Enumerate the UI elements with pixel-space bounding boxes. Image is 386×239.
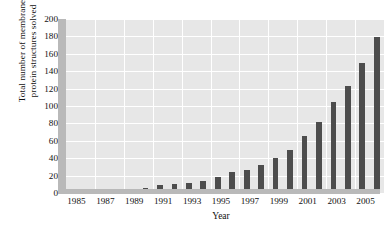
- gridline-vertical: [326, 19, 327, 193]
- y-axis-tick-label: 40: [49, 153, 58, 163]
- gridline-horizontal: [66, 54, 384, 55]
- gridline-vertical: [153, 19, 154, 193]
- gridline-vertical: [124, 19, 125, 193]
- y-axis-tick-label: 160: [44, 49, 58, 59]
- x-axis-tick-label: 1995: [212, 196, 230, 206]
- bar: [331, 102, 337, 193]
- x-axis-tick-label: 1993: [183, 196, 201, 206]
- gridline-horizontal: [66, 123, 384, 124]
- plot-inner: [66, 19, 384, 193]
- gridline-vertical: [211, 19, 212, 193]
- x-axis-tick-label: 1999: [270, 196, 288, 206]
- bar: [345, 86, 351, 193]
- gridline-horizontal: [66, 141, 384, 142]
- x-axis-tick-label: 2005: [356, 196, 374, 206]
- y-axis-tick-label: 120: [44, 84, 58, 94]
- y-axis-tick-labels: 020406080100120140160180200: [30, 14, 60, 194]
- gridline-horizontal: [66, 36, 384, 37]
- bar: [374, 37, 380, 193]
- gridline-horizontal: [66, 106, 384, 107]
- gridline-horizontal: [66, 158, 384, 159]
- gridline-vertical: [297, 19, 298, 193]
- gridline-horizontal: [66, 176, 384, 177]
- gridline-horizontal: [66, 19, 384, 20]
- gridline-horizontal: [66, 89, 384, 90]
- y-axis-tick-label: 100: [44, 101, 58, 111]
- y-axis-tick-label: 80: [49, 118, 58, 128]
- gridline-vertical: [355, 19, 356, 193]
- x-axis-tick-labels: 1985198719891991199319951997199920012003…: [62, 196, 380, 212]
- bar: [302, 136, 308, 193]
- x-axis-tick-label: 1991: [154, 196, 172, 206]
- x-axis-tick-label: 1989: [125, 196, 143, 206]
- gridline-vertical: [182, 19, 183, 193]
- gridline-vertical: [239, 19, 240, 193]
- gridline-horizontal: [66, 71, 384, 72]
- x-axis-tick-label: 1985: [67, 196, 85, 206]
- x-axis-title: Year: [62, 211, 380, 221]
- y-axis-tick-label: 20: [49, 171, 58, 181]
- bar: [359, 63, 365, 194]
- bar: [287, 150, 293, 194]
- gridline-vertical: [268, 19, 269, 193]
- y-axis-tick-label: 180: [44, 31, 58, 41]
- y-axis-title-line-1: Total number of membrane: [17, 0, 28, 141]
- y-axis-tick-label: 200: [44, 14, 58, 24]
- bar: [316, 122, 322, 193]
- x-axis-tick-label: 2003: [327, 196, 345, 206]
- y-axis-tick-label: 140: [44, 66, 58, 76]
- x-axis-tick-label: 1997: [241, 196, 259, 206]
- x-axis-spine: [62, 189, 380, 194]
- x-axis-tick-label: 2001: [299, 196, 317, 206]
- bar: [273, 158, 279, 193]
- x-axis-tick-label: 1987: [96, 196, 114, 206]
- y-axis-tick-label: 60: [49, 136, 58, 146]
- gridline-vertical: [95, 19, 96, 193]
- chart-figure: Total number of membrane protein structu…: [0, 0, 386, 239]
- plot-area: [62, 19, 384, 193]
